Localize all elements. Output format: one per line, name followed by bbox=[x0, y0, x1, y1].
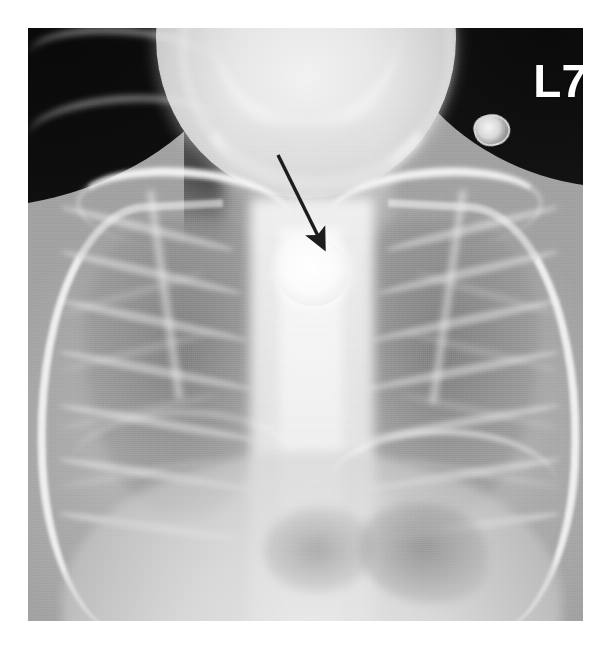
side-marker-label: L7 bbox=[533, 58, 583, 104]
chest-radiograph: L7 bbox=[28, 28, 583, 621]
image-viewer: L7 bbox=[0, 0, 609, 647]
film-grain-overlay bbox=[28, 28, 583, 621]
